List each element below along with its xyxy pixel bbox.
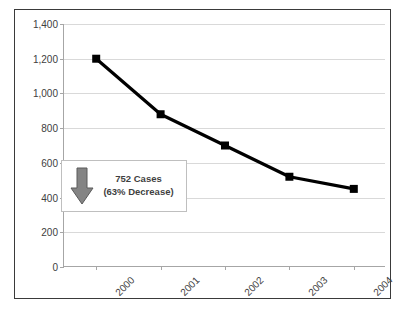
- chart-plot-wrapper: 02004006008001,0001,2001,400 20002001200…: [15, 10, 392, 300]
- data-point-marker: [285, 173, 293, 181]
- x-axis-label: 2000: [113, 274, 137, 298]
- y-axis-label: 400: [41, 192, 58, 203]
- x-axis-label: 2004: [371, 274, 395, 298]
- chart-frame: 02004006008001,0001,2001,400 20002001200…: [14, 9, 391, 299]
- annotation-callout: 752 Cases (63% Decrease): [61, 160, 187, 212]
- data-point-marker: [350, 185, 358, 193]
- x-axis-label: 2002: [242, 274, 266, 298]
- y-axis-label: 800: [41, 123, 58, 134]
- y-axis-label: 1,000: [33, 88, 58, 99]
- annotation-text: 752 Cases (63% Decrease): [95, 173, 186, 199]
- y-axis-tick: [60, 267, 64, 268]
- x-axis-label: 2001: [178, 274, 202, 298]
- y-axis-label: 200: [41, 227, 58, 238]
- data-point-marker: [221, 142, 229, 150]
- x-axis-label: 2003: [306, 274, 330, 298]
- plot-area: 02004006008001,0001,2001,400 20002001200…: [63, 24, 385, 267]
- y-axis-label: 1,200: [33, 53, 58, 64]
- annotation-line-1: 752 Cases: [95, 173, 182, 186]
- data-series-cases: [64, 24, 386, 267]
- annotation-line-2: (63% Decrease): [95, 186, 182, 199]
- y-axis-label: 0: [52, 262, 58, 273]
- y-axis-label: 600: [41, 157, 58, 168]
- data-point-marker: [92, 55, 100, 63]
- down-arrow-icon: [69, 166, 95, 206]
- data-point-marker: [157, 110, 165, 118]
- y-axis-label: 1,400: [33, 19, 58, 30]
